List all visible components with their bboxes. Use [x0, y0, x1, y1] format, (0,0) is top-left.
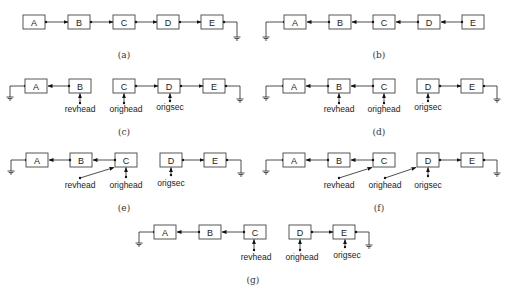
node-d: D — [289, 225, 311, 239]
pointer-revhead: revhead — [324, 104, 355, 114]
pointer-revhead: revhead — [65, 180, 96, 190]
svg-text:E: E — [341, 228, 347, 238]
svg-text:C: C — [381, 18, 388, 28]
pointer-orighead: orighead — [109, 180, 142, 190]
svg-text:A: A — [291, 82, 297, 92]
svg-text:D: D — [297, 228, 304, 238]
null-ground-icon — [238, 170, 245, 176]
node-b: B — [328, 79, 350, 93]
svg-text:C: C — [121, 18, 128, 28]
linked-list-reversal-figure: A B C D E (a) A B C D E (b) — [0, 0, 507, 292]
node-d: D — [417, 153, 439, 167]
node-e: E — [201, 15, 223, 29]
node-d: D — [158, 79, 180, 93]
svg-text:C: C — [123, 156, 130, 166]
pointer-orighead: orighead — [367, 104, 400, 114]
node-b: B — [199, 225, 221, 239]
svg-text:C: C — [252, 228, 259, 238]
node-c: C — [373, 15, 395, 29]
pointer-origsec: origsec — [157, 178, 185, 188]
svg-text:B: B — [336, 156, 342, 166]
pointer-orighead: orighead — [368, 180, 401, 190]
svg-text:B: B — [337, 18, 343, 28]
svg-text:E: E — [209, 18, 215, 28]
node-c: C — [373, 153, 395, 167]
caption-f: (f) — [374, 203, 384, 213]
svg-text:D: D — [168, 156, 175, 166]
node-c: C — [115, 153, 137, 167]
node-a: A — [283, 153, 305, 167]
node-b: B — [70, 153, 92, 167]
svg-text:D: D — [425, 82, 432, 92]
svg-text:B: B — [76, 18, 82, 28]
null-ground-icon — [494, 170, 501, 176]
svg-text:B: B — [77, 82, 83, 92]
svg-text:E: E — [469, 156, 475, 166]
svg-text:A: A — [33, 82, 39, 92]
panel-a: A B C D E (a) — [23, 15, 241, 60]
pointer-revhead: revhead — [324, 180, 355, 190]
pointer-origsec: origsec — [414, 180, 442, 190]
panel-d: A B C D E revhead orighead origsec (d) — [263, 79, 501, 137]
node-d: D — [417, 79, 439, 93]
node-a: A — [26, 153, 48, 167]
svg-text:E: E — [212, 156, 218, 166]
node-a: A — [154, 225, 176, 239]
null-ground-icon — [136, 240, 143, 246]
svg-text:E: E — [470, 18, 476, 28]
panel-c: A B C D E revhead orighead origsec (c) — [7, 79, 244, 137]
pointer-origsec: origsec — [333, 250, 361, 260]
node-b: B — [328, 153, 350, 167]
svg-text:A: A — [31, 18, 37, 28]
caption-g: (g) — [247, 275, 260, 285]
node-b: B — [68, 15, 90, 29]
svg-text:B: B — [336, 82, 342, 92]
node-e: E — [461, 153, 483, 167]
node-e: E — [204, 153, 226, 167]
node-b: B — [69, 79, 91, 93]
svg-text:A: A — [162, 228, 168, 238]
svg-text:C: C — [381, 82, 388, 92]
svg-text:A: A — [292, 18, 298, 28]
caption-a: (a) — [118, 50, 130, 60]
node-a: A — [284, 15, 306, 29]
node-a: A — [23, 15, 45, 29]
node-c: C — [373, 79, 395, 93]
node-c: C — [113, 15, 135, 29]
svg-text:E: E — [211, 82, 217, 92]
null-ground-icon — [494, 96, 501, 102]
node-b: B — [329, 15, 351, 29]
node-c: C — [244, 225, 266, 239]
panel-e: A B C D E revhead orighead origsec (e) — [8, 153, 245, 213]
pointer-origsec: origsec — [414, 102, 442, 112]
svg-text:A: A — [34, 156, 40, 166]
node-e: E — [333, 225, 355, 239]
caption-e: (e) — [118, 203, 130, 213]
caption-b: (b) — [373, 50, 386, 60]
caption-d: (d) — [373, 127, 386, 137]
null-ground-icon — [263, 94, 270, 100]
null-ground-icon — [263, 34, 270, 40]
node-d: D — [157, 15, 179, 29]
null-ground-icon — [366, 242, 373, 248]
panel-b: A B C D E (b) — [263, 15, 485, 60]
node-e: E — [462, 15, 484, 29]
svg-text:D: D — [425, 156, 432, 166]
pointer-revhead: revhead — [65, 104, 96, 114]
svg-text:C: C — [381, 156, 388, 166]
svg-text:D: D — [166, 82, 173, 92]
node-c: C — [113, 79, 135, 93]
panel-f: A B C D E revhead orighead origsec (f) — [263, 153, 501, 213]
node-d: D — [418, 15, 440, 29]
caption-c: (c) — [118, 127, 130, 137]
svg-text:A: A — [291, 156, 297, 166]
svg-text:D: D — [165, 18, 172, 28]
node-e: E — [461, 79, 483, 93]
svg-text:C: C — [121, 82, 128, 92]
pointer-orighead: orighead — [109, 104, 142, 114]
svg-text:E: E — [469, 82, 475, 92]
null-ground-icon — [7, 94, 14, 100]
node-d: D — [160, 153, 182, 167]
null-ground-icon — [263, 168, 270, 174]
null-ground-icon — [237, 96, 244, 102]
